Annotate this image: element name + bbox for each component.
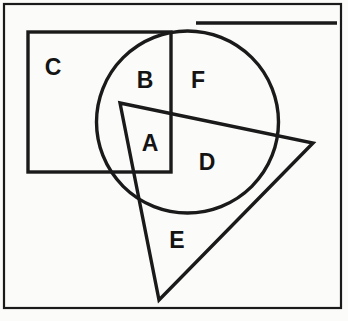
region-label-f: F: [191, 69, 205, 92]
region-label-b: B: [137, 69, 154, 92]
region-label-d: D: [199, 151, 216, 174]
region-label-c: C: [45, 56, 62, 79]
region-label-e: E: [169, 229, 184, 252]
region-label-a: A: [142, 132, 159, 155]
venn-figure-canvas: A B C D E F: [0, 0, 348, 321]
geometry-diagram: [0, 0, 348, 321]
